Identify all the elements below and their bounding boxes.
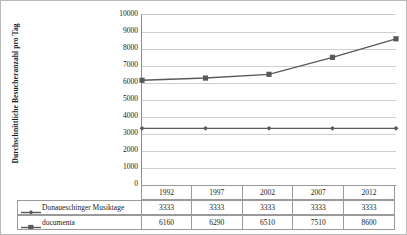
y-tick-label: 10000 — [97, 10, 138, 18]
table-cell-value: 7510 — [293, 215, 344, 230]
diamond-marker — [140, 126, 145, 131]
table-cell-value: 3333 — [192, 200, 243, 215]
square-marker — [393, 36, 398, 41]
y-tick-label: 4000 — [97, 112, 138, 120]
y-tick-label: 9000 — [97, 27, 138, 35]
diamond-marker — [21, 208, 41, 215]
y-tick-label: 7000 — [97, 61, 138, 69]
table-cell-value: 3333 — [293, 200, 344, 215]
series-lines — [142, 15, 396, 186]
data-table: 19921997200220072012Donaueschinger Musik… — [17, 185, 395, 230]
legend-cell: Donaueschinger Musiktage — [17, 200, 141, 215]
chart-frame: Durchschnittliche Besucheranzahl pro Tag… — [0, 0, 407, 235]
square-marker — [21, 223, 41, 230]
diamond-marker — [330, 126, 335, 131]
table-row: documenta61606290651075108600 — [17, 215, 395, 230]
column-header-year: 2007 — [293, 185, 344, 200]
column-header-year: 1997 — [192, 185, 243, 200]
diamond-marker — [267, 126, 272, 131]
column-header-year: 1992 — [141, 185, 192, 200]
table-cell-value: 3333 — [243, 200, 294, 215]
table-cell-value: 6290 — [192, 215, 243, 230]
legend-key — [21, 203, 41, 212]
legend-label: Donaueschinger Musiktage — [42, 203, 124, 212]
y-tick-label: 6000 — [97, 78, 138, 86]
y-tick-label: 2000 — [97, 146, 138, 154]
y-tick-label: 5000 — [97, 95, 138, 103]
table-cell-value: 6510 — [243, 215, 294, 230]
legend-key — [21, 218, 41, 227]
table-cell-value: 3333 — [141, 200, 192, 215]
legend-label: documenta — [42, 218, 75, 227]
square-marker — [139, 78, 144, 83]
table-cell-value: 8600 — [344, 215, 395, 230]
square-marker — [266, 72, 271, 77]
diamond-marker — [203, 126, 208, 131]
table-cell-value: 6160 — [141, 215, 192, 230]
diamond-marker — [394, 126, 399, 131]
column-header-year: 2012 — [344, 185, 395, 200]
y-tick-label: 3000 — [97, 129, 138, 137]
square-marker — [203, 75, 208, 80]
legend-cell: documenta — [17, 215, 141, 230]
table-row: Donaueschinger Musiktage3333333333333333… — [17, 200, 395, 215]
table-cell-value: 3333 — [344, 200, 395, 215]
y-tick-label: 8000 — [97, 44, 138, 52]
table-corner-cell — [17, 185, 141, 200]
plot-area — [141, 14, 395, 185]
table-header-row: 19921997200220072012 — [17, 185, 395, 200]
square-marker — [330, 55, 335, 60]
y-axis-title: Durchschnittliche Besucheranzahl pro Tag — [11, 6, 20, 182]
y-tick-label: 1000 — [97, 163, 138, 171]
column-header-year: 2002 — [243, 185, 294, 200]
